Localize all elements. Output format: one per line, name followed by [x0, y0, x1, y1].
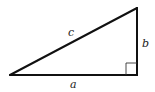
- right-triangle-diagram: c b a: [0, 0, 155, 92]
- vertical-leg-label: b: [142, 37, 149, 50]
- base-leg-label: a: [70, 78, 77, 91]
- hypotenuse-label: c: [68, 26, 74, 39]
- hypotenuse-line: [10, 8, 137, 75]
- right-angle-marker-icon: [126, 63, 137, 75]
